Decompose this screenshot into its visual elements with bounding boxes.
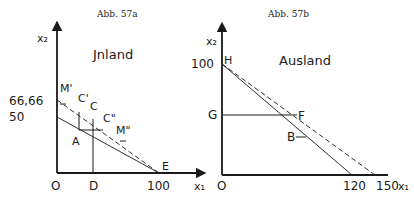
label-h: H [224,54,232,67]
solid-line-right [222,64,352,175]
x-tick-o-right: O [217,179,226,193]
label-c1: C' [78,92,89,105]
x-tick-100-left: 100 [147,179,170,193]
y-tick-50: 50 [9,110,24,124]
x-axis-label-right: x₁ [398,180,409,193]
label-e: E [162,160,169,173]
label-c2: C" [103,112,116,125]
x-tick-o-left: O [51,179,60,193]
y-tick-66: 66,66 [9,94,43,108]
title-inland: Jnland [92,47,133,62]
y-axis-label-left: x₂ [37,32,48,45]
label-b: B [287,130,295,144]
diagram-canvas: Abb. 57a x₂ Jnland 66,66 50 M' C' C C" M… [0,0,414,199]
x-tick-150: 150 [376,179,399,193]
title-ausland: Ausland [279,53,331,68]
label-m1: M' [60,82,73,95]
y-axis-label-right: x₂ [206,35,217,48]
caption-right: Abb. 57b [267,9,309,19]
x-axis-label-left: x₁ [194,180,205,193]
y-tick-100-right: 100 [191,57,214,71]
x-tick-d: D [89,179,98,193]
caption-left: Abb. 57a [96,9,138,19]
chart-inland: Abb. 57a x₂ Jnland 66,66 50 M' C' C C" M… [9,9,205,193]
label-m2: M" [116,124,131,137]
label-f: F [298,109,305,123]
label-a: A [72,135,80,148]
label-g: G [208,108,217,122]
x-tick-120: 120 [343,179,366,193]
chart-ausland: Abb. 57b x₂ Ausland 100 H G F B O 120 15… [191,9,409,193]
label-c: C [90,100,98,113]
